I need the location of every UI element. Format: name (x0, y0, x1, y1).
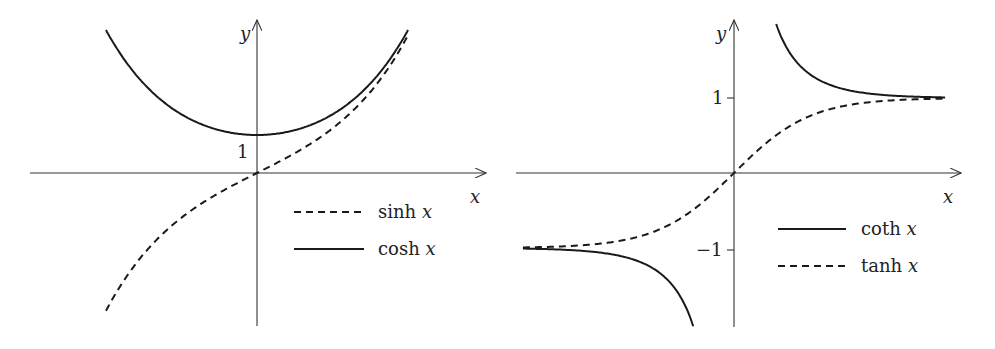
hyperbolic-tanh-coth-plot: x y 1−1 coth x tanh x (516, 20, 961, 327)
y-axis-label: y (715, 23, 727, 44)
legend-item: coth x (778, 218, 917, 239)
legend-item: cosh x (294, 238, 436, 259)
y-axis-label: y (239, 23, 251, 44)
legend-item: sinh x (294, 201, 432, 222)
legend: sinh x cosh x (294, 201, 436, 259)
tick-labels: 1 (237, 141, 248, 162)
legend-item: tanh x (778, 255, 918, 276)
x-axis-label: x (943, 186, 953, 207)
tick-label: 1 (712, 87, 723, 108)
legend-label: coth x (861, 218, 917, 239)
x-axis-label: x (470, 186, 480, 207)
hyperbolic-sinh-cosh-plot: x y 1 sinh x cosh x (30, 20, 486, 326)
tick-label: −1 (696, 239, 723, 260)
legend: coth x tanh x (778, 218, 918, 276)
legend-label: tanh x (861, 255, 918, 276)
legend-label: cosh x (378, 238, 436, 259)
tick-label: 1 (237, 141, 248, 162)
legend-label: sinh x (378, 201, 432, 222)
figure: x y 1 sinh x cosh x x y 1−1 coth x (0, 0, 995, 349)
